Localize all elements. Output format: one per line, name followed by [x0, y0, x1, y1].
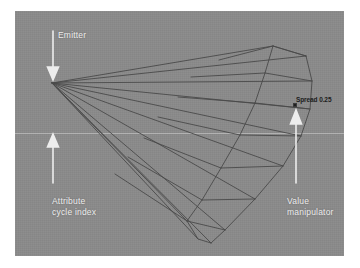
3d-viewport[interactable]: Spread 0.25	[15, 11, 344, 256]
emitter-cone-wireframe[interactable]	[15, 11, 344, 256]
spread-value-readout: Spread 0.25	[296, 96, 331, 103]
screenshot-root: Spread 0.25	[0, 0, 360, 268]
annotation-label-attribute-cycle-index: Attribute cycle index	[52, 196, 96, 218]
annotation-label-value-manipulator: Value manipulator	[287, 196, 334, 218]
manipulator-handle-icon[interactable]	[293, 103, 297, 107]
cone-cap-inner-seam	[187, 46, 273, 221]
annotation-label-emitter: Emitter	[58, 30, 86, 41]
cone-cross-rings	[115, 46, 273, 221]
